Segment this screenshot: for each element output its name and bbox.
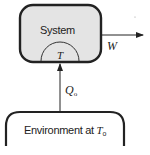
temperature-label: T: [57, 50, 63, 61]
work-label: W: [107, 40, 117, 52]
heat-subscript: o: [74, 90, 78, 98]
speck: [134, 16, 135, 17]
heat-label: Qo: [65, 84, 77, 98]
system-label: System: [40, 25, 75, 36]
environment-text: Environment at: [24, 124, 97, 136]
heat-symbol: Q: [65, 83, 74, 97]
environment-temp-subscript: o: [102, 130, 106, 137]
environment-label: Environment at To: [24, 125, 106, 137]
